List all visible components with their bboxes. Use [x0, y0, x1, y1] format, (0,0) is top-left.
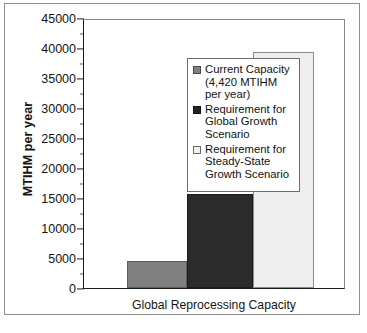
y-tick-label: 15000 [41, 192, 76, 206]
legend-label-steady-state: Requirement for Steady-State Growth Scen… [205, 143, 295, 181]
legend-swatch-steady-state [193, 146, 201, 154]
y-tick-label: 40000 [41, 42, 76, 56]
legend-swatch-global-growth [193, 106, 201, 114]
y-tick-label: 20000 [41, 162, 76, 176]
y-tick-label: 30000 [41, 102, 76, 116]
plot-area: Current Capacity (4,420 MTIHM per year) … [83, 19, 345, 289]
y-axis-ticks: 4500040000350003000025000200001500010000… [0, 0, 83, 333]
legend-swatch-current-capacity [193, 66, 201, 74]
y-tick-label: 25000 [41, 132, 76, 146]
y-tick-label: 45000 [41, 12, 76, 26]
legend-label-current-capacity: Current Capacity (4,420 MTIHM per year) [205, 63, 295, 101]
legend-item-steady-state: Requirement for Steady-State Growth Scen… [193, 143, 295, 181]
y-tick-label: 0 [69, 282, 76, 296]
legend-item-current-capacity: Current Capacity (4,420 MTIHM per year) [193, 63, 295, 101]
bar-global-growth[interactable] [187, 194, 253, 288]
y-tick-label: 10000 [41, 222, 76, 236]
bar-current-capacity[interactable] [127, 261, 187, 288]
legend-item-global-growth: Requirement for Global Growth Scenario [193, 103, 295, 141]
bar-chart-figure: MTIHM per year 4500040000350003000025000… [0, 0, 367, 333]
x-axis-title: Global Reprocessing Capacity [83, 298, 345, 312]
chart-legend: Current Capacity (4,420 MTIHM per year) … [187, 58, 300, 192]
y-tick-label: 5000 [48, 252, 76, 266]
y-tick-label: 35000 [41, 72, 76, 86]
legend-label-global-growth: Requirement for Global Growth Scenario [205, 103, 295, 141]
